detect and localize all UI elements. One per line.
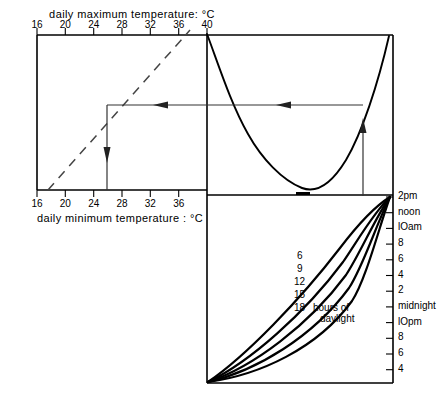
time-label-2pm: 2pm bbox=[398, 190, 417, 201]
nomogram-figure: daily maximum temperature: °C 16 20 24 2… bbox=[0, 0, 441, 401]
time-label-4pm: 4 bbox=[398, 363, 404, 374]
time-label-2am: 2 bbox=[398, 284, 404, 295]
time-label-10am: lOam bbox=[398, 221, 422, 232]
top-tick-label-40: 40 bbox=[199, 19, 215, 30]
left-panel-frame bbox=[37, 35, 207, 190]
bottom-tick-label-16: 16 bbox=[29, 198, 45, 209]
bottom-tick-label-36: 36 bbox=[171, 198, 187, 209]
time-label-noon: noon bbox=[398, 206, 420, 217]
top-tick-label-28: 28 bbox=[114, 19, 130, 30]
time-label-8am: 8 bbox=[398, 237, 404, 248]
left-panel-dashed-diagonal bbox=[48, 30, 190, 190]
daylight-caption-line1: hours of bbox=[313, 302, 349, 313]
left-panel-bottom-ticks bbox=[37, 190, 179, 197]
bottom-tick-label-24: 24 bbox=[86, 198, 102, 209]
top-tick-label-24: 24 bbox=[86, 19, 102, 30]
time-label-6am: 6 bbox=[398, 253, 404, 264]
time-label-4am: 4 bbox=[398, 269, 404, 280]
top-tick-label-16: 16 bbox=[29, 19, 45, 30]
reading-arrow-vertical-down bbox=[104, 105, 111, 190]
bottom-tick-label-20: 20 bbox=[57, 198, 73, 209]
daylight-caption-line2: daylight bbox=[320, 313, 354, 324]
bottom-axis-title: daily minimum temperature : °C bbox=[20, 212, 220, 224]
daylight-label-6: 6 bbox=[297, 250, 303, 261]
top-tick-label-20: 20 bbox=[57, 19, 73, 30]
time-axis-ticks bbox=[386, 197, 393, 370]
top-tick-label-32: 32 bbox=[142, 19, 158, 30]
bottom-tick-label-28: 28 bbox=[114, 198, 130, 209]
daylight-label-15: 15 bbox=[294, 289, 305, 300]
top-tick-label-36: 36 bbox=[171, 19, 187, 30]
bottom-tick-label-32: 32 bbox=[142, 198, 158, 209]
daylight-label-18: 18 bbox=[294, 302, 305, 313]
seasonal-temperature-curve bbox=[207, 34, 389, 190]
time-label-midnight: midnight bbox=[398, 300, 436, 311]
time-label-8pm: 8 bbox=[398, 331, 404, 342]
time-label-6pm: 6 bbox=[398, 347, 404, 358]
upper-right-panel-frame bbox=[207, 35, 393, 195]
daylight-label-9: 9 bbox=[297, 263, 303, 274]
time-label-10pm: lOpm bbox=[398, 316, 422, 327]
daylight-label-12: 12 bbox=[294, 276, 305, 287]
